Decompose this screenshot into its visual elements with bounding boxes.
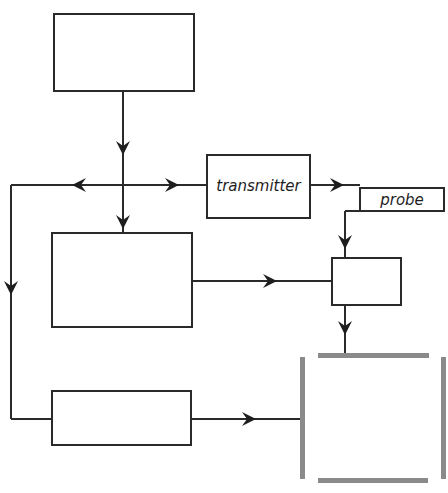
- small-block: [332, 258, 401, 305]
- probe-label: probe: [379, 191, 424, 209]
- top-block: [54, 14, 194, 91]
- bottom-block: [52, 391, 191, 445]
- target-chamber: [300, 353, 446, 483]
- block-diagram: transmitter probe: [0, 0, 448, 493]
- middle-block: [52, 233, 192, 327]
- transmitter-label: transmitter: [216, 177, 301, 195]
